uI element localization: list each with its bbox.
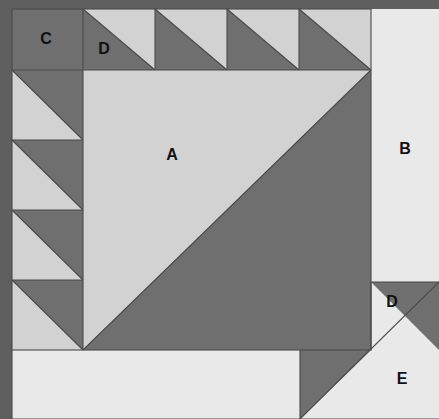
quilt-block-svg: A B C D D E xyxy=(0,0,439,419)
quilt-block-diagram: A B C D D E xyxy=(0,0,439,419)
top-edge-strip xyxy=(0,0,439,9)
piece-label-d-bottom: D xyxy=(386,293,398,310)
piece-label-a: A xyxy=(166,146,178,163)
piece-label-d-top: D xyxy=(98,40,110,57)
left-edge-strip xyxy=(0,0,12,419)
piece-label-b: B xyxy=(399,140,411,157)
piece-label-c: C xyxy=(40,30,52,47)
piece-e-background xyxy=(12,350,439,419)
piece-label-e: E xyxy=(397,370,408,387)
